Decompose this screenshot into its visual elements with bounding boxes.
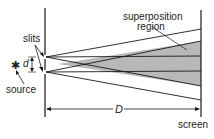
d-arrow-bottom (30, 68, 34, 72)
slits-label: slits (23, 34, 40, 44)
slits-arrowhead-lower (39, 67, 43, 72)
d-arrow-top (30, 57, 34, 61)
slits-arrow-lower (35, 45, 42, 70)
D-arrow-left (46, 107, 51, 111)
superposition-label-line2: region (137, 22, 165, 32)
d-label: d (23, 59, 29, 69)
D-label: D (115, 104, 123, 115)
source-star-icon: ✱ (11, 60, 20, 71)
screen-label: screen (178, 120, 208, 130)
source-arrow (17, 72, 24, 84)
D-arrow-right (195, 107, 200, 111)
source-label: source (6, 85, 36, 95)
